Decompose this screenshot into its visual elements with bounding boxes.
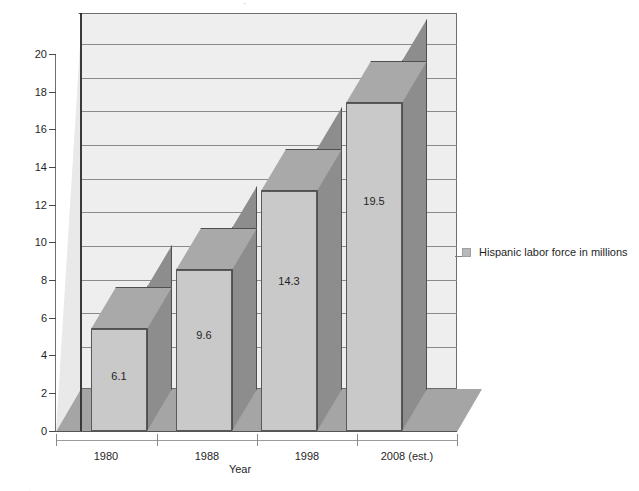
gridline-diagonal-18 [56,78,82,121]
y-label-18: 18 [7,87,47,98]
bar-1998[interactable] [261,107,342,431]
y-tick-12 [49,205,56,206]
y-tick-18 [49,92,56,93]
scan-artifact-bottom: . [28,483,358,491]
x-tick-3 [357,434,358,446]
y-label-4: 4 [7,350,47,361]
y-tick-2 [49,393,56,394]
y-tick-8 [49,280,56,281]
y-label-12: 12 [7,200,47,211]
bar-value-1980: 6.1 [91,371,147,382]
y-label-0: 0 [7,426,47,437]
y-tick-14 [49,167,56,168]
bar-1980-side-face [147,245,172,431]
y-label-20: 20 [7,49,47,60]
bar-1988[interactable] [176,186,257,431]
y-label-6: 6 [7,313,47,324]
legend-color-swatch [462,248,471,257]
plot-box-top-diagonal [56,13,82,56]
floor-right-edge [430,388,482,432]
bar-1988-side-face [232,186,257,431]
y-axis-tick-rail [55,55,56,432]
chart-legend[interactable]: Hispanic labor force in millions [462,246,628,258]
y-tick-16 [49,129,56,130]
bar-value-1988: 9.6 [176,330,232,341]
y-tick-20 [49,54,56,55]
bar-2008[interactable] [346,19,427,431]
legend-label: Hispanic labor force in millions [479,246,628,258]
bar-2008-front-face [346,103,402,431]
x-tick-1 [157,434,158,446]
y-tick-0 [49,431,56,432]
y-label-10: 10 [7,237,47,248]
x-tick-2 [257,434,258,446]
y-tick-6 [49,318,56,319]
y-tick-10 [49,242,56,243]
y-label-16: 16 [7,124,47,135]
y-axis-line [80,13,82,432]
hispanic-labor-force-bar-chart: · 6.1 9.6 14.3 [0,0,639,491]
y-label-2: 2 [7,388,47,399]
bar-1980[interactable] [91,245,172,431]
bar-1998-front-face [261,191,317,431]
x-axis-title: Year [0,463,480,475]
floor-front-edge [56,431,457,432]
bar-1988-front-face [176,270,232,431]
x-label-2008: 2008 (est.) [347,450,467,462]
y-label-8: 8 [7,275,47,286]
x-tick-end [457,434,458,446]
x-tick-start [56,434,57,446]
y-tick-4 [49,355,56,356]
bar-value-2008: 19.5 [346,196,402,207]
scan-artifact-top: · [243,0,252,7]
bar-value-1998: 14.3 [261,276,317,287]
y-label-14: 14 [7,162,47,173]
